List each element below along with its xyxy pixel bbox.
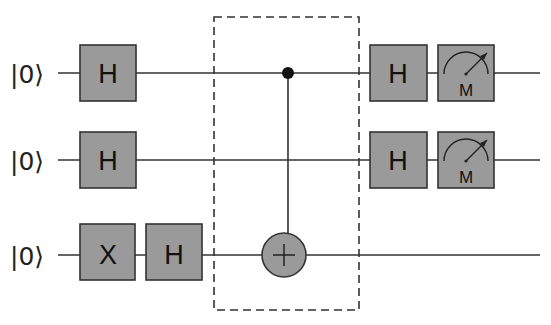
gate-label: H [388,59,408,89]
gate-label: H [388,146,408,176]
qubit-label-q1: |0⟩ [10,147,44,176]
cnot-control-dot [282,67,294,79]
qubit-label-q2: |0⟩ [10,242,44,271]
gate-h-q1-pre: H [80,132,136,188]
gate-h-q2-pre: H [146,224,202,280]
gate-label: X [99,240,117,270]
measurement-gate-q1: M [438,132,494,188]
gate-label: M [459,81,473,100]
gate-h-q1-post: H [370,132,427,188]
gate-h-q0-pre: H [80,45,136,101]
qubit-label-q0: |0⟩ [10,60,44,89]
gate-label: H [98,146,118,176]
measurement-gate-q0: M [438,45,494,101]
gate-h-q0-post: H [370,45,427,101]
gate-label: M [459,168,473,187]
gate-label: H [98,59,118,89]
gate-label: H [164,240,184,270]
gate-x-q2-pre: X [80,224,135,280]
quantum-circuit-diagram: |0⟩ |0⟩ |0⟩ H H X H H H M M [0,0,551,325]
